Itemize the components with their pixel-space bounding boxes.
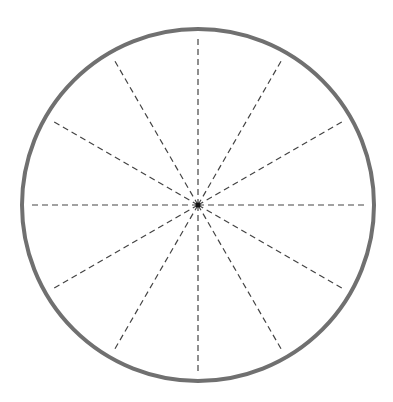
radius-line-240deg — [53, 205, 199, 289]
center-point — [196, 203, 201, 208]
radius-line-60deg — [198, 121, 344, 205]
radius-line-300deg — [53, 121, 199, 205]
circle-diagram — [0, 0, 393, 402]
radius-line-120deg — [198, 205, 344, 289]
radius-line-150deg — [198, 205, 282, 351]
radius-line-330deg — [114, 60, 198, 206]
radius-line-30deg — [198, 60, 282, 206]
radius-line-210deg — [114, 205, 198, 351]
diagram-canvas — [0, 0, 393, 402]
